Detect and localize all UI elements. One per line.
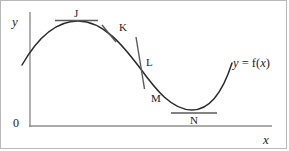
function-equation-label: y = f(x)	[233, 57, 270, 70]
point-label-k: K	[119, 22, 127, 33]
point-label-j: J	[74, 8, 78, 19]
point-label-n: N	[190, 115, 198, 126]
point-label-m: M	[151, 93, 161, 104]
y-axis-label: y	[12, 15, 18, 28]
tangent-line-L	[136, 37, 145, 89]
x-axis-label: x	[263, 133, 269, 146]
calculus-graph-figure: y x 0 J K L M N y = f(x)	[0, 0, 289, 151]
point-label-l: L	[146, 57, 153, 68]
plot-area	[0, 0, 289, 151]
function-label-close-paren: )	[266, 56, 270, 70]
function-curve	[22, 21, 232, 110]
tangent-line-K	[102, 25, 116, 42]
origin-label: 0	[13, 117, 19, 129]
function-label-equals: = f(	[239, 56, 261, 70]
